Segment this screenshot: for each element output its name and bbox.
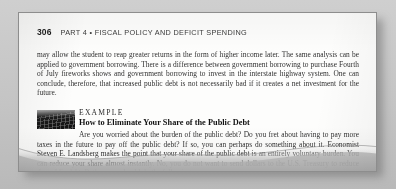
example-feature-box: EXAMPLE How to Eliminate Your Share of t…	[37, 109, 359, 172]
running-head: 306 PART 4 • FISCAL POLICY AND DEFICIT S…	[37, 27, 359, 37]
page-content: 306 PART 4 • FISCAL POLICY AND DEFICIT S…	[19, 13, 376, 171]
running-head-title: PART 4 • FISCAL POLICY AND DEFICIT SPEND…	[60, 28, 247, 37]
page-number: 306	[37, 27, 51, 37]
scanned-page-viewport: 306 PART 4 • FISCAL POLICY AND DEFICIT S…	[0, 0, 396, 189]
body-paragraph: may allow the student to reap greater re…	[37, 50, 359, 98]
textbook-page-sheet: 306 PART 4 • FISCAL POLICY AND DEFICIT S…	[18, 12, 377, 172]
example-kicker-label: EXAMPLE	[79, 109, 359, 118]
example-body-text: Are you worried about the burden of the …	[37, 130, 359, 172]
computer-keyboard-photo	[37, 110, 75, 129]
figure-text-wrap-shim	[37, 130, 79, 140]
example-body-text-wrap: Are you worried about the burden of the …	[37, 130, 359, 172]
example-title: How to Eliminate Your Share of the Publi…	[79, 118, 359, 128]
